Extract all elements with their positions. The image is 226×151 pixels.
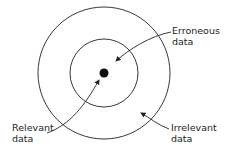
irrelevant-label: Irrelevant data — [171, 122, 217, 144]
erroneous-label: Erroneous data — [172, 25, 220, 47]
erroneous-arrow — [116, 32, 171, 61]
relevant-label: Relevant data — [12, 122, 54, 144]
relevant-label-line1: Relevant — [12, 122, 54, 133]
irrelevant-label-line2: data — [171, 133, 217, 144]
erroneous-label-line2: data — [172, 36, 220, 47]
irrelevant-label-line1: Irrelevant — [171, 122, 217, 133]
erroneous-label-line1: Erroneous — [172, 25, 220, 36]
relevant-data-dot — [100, 69, 109, 78]
relevant-label-line2: data — [12, 133, 54, 144]
